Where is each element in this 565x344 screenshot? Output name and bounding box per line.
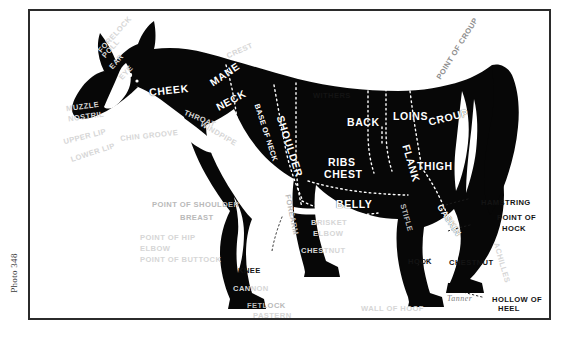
photo-plate-page: Photo 348	[0, 0, 565, 344]
artist-signature: Tanner	[447, 294, 472, 303]
photo-caption: Photo 348	[9, 243, 19, 303]
diagram-canvas: CHEEK MANE NECK SHOULDER BASE OF NECK BA…	[30, 11, 549, 318]
diagram-frame: CHEEK MANE NECK SHOULDER BASE OF NECK BA…	[28, 9, 551, 320]
horse-silhouette-figure	[30, 11, 549, 318]
